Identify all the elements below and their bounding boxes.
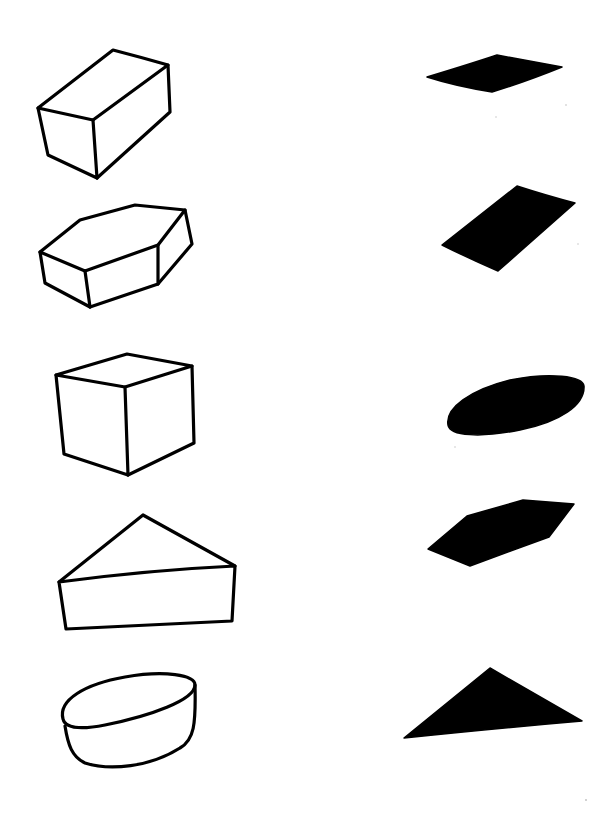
triangle-silhouette[interactable] [404, 668, 582, 738]
rectangle-silhouette[interactable] [442, 186, 575, 271]
cube-drawing[interactable]: Cube line drawing [56, 354, 194, 475]
rhombus-silhouette[interactable] [427, 55, 562, 92]
oval-cylinder-drawing[interactable]: Oval cylinder line drawing [62, 674, 195, 767]
right-silhouettes-column [404, 55, 584, 738]
triangular-prism-drawing[interactable]: Triangular prism line drawing [59, 515, 235, 629]
left-shapes-column: Rectangular prism (cuboid) line drawing … [38, 50, 235, 767]
hexagon-silhouette[interactable] [428, 500, 574, 566]
hexagonal-prism-drawing[interactable]: Hexagonal prism line drawing [40, 205, 192, 307]
rectangular-prism-drawing[interactable]: Rectangular prism (cuboid) line drawing [38, 50, 170, 178]
oval-silhouette[interactable] [448, 376, 584, 435]
shape-matching-worksheet: Rectangular prism (cuboid) line drawing … [0, 0, 612, 813]
